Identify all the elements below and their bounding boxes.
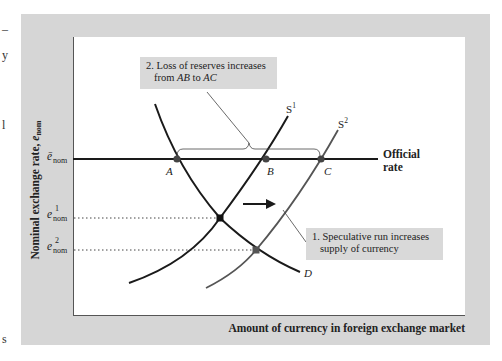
text-ab: AB [177, 72, 190, 83]
diagram-graphics [0, 0, 502, 361]
official-rate-label: Official rate [383, 148, 420, 174]
callout-reserves: 2. Loss of reserves increases from AB to… [140, 57, 277, 89]
shift-arrow-head [266, 199, 276, 209]
curve-label-sup: 2 [344, 116, 348, 125]
text-ac: AC [203, 72, 216, 83]
demand-curve [155, 104, 300, 272]
official-rate-line2: rate [383, 161, 420, 174]
text: from [154, 72, 177, 83]
supply-curve-s1 [129, 116, 288, 283]
callout-reserves-line1: 2. Loss of reserves increases [146, 60, 266, 71]
point-a-marker [173, 155, 180, 162]
official-rate-line1: Official [383, 148, 420, 161]
text: to [190, 72, 203, 83]
curve-label-d: D [304, 267, 312, 279]
curve-label-sup: 1 [292, 101, 296, 110]
reserves-brace [177, 143, 320, 156]
curve-label-s2: S2 [338, 116, 348, 130]
equilibrium-e1-marker [217, 215, 224, 222]
callout-speculative: 1. Speculative run increases supply of c… [306, 228, 443, 260]
curve-label-s1: S1 [286, 101, 296, 115]
point-b-marker [262, 155, 269, 162]
callout-speculative-line1: 1. Speculative run increases [312, 231, 429, 242]
reserves-leader-line [207, 92, 249, 143]
point-b-label: B [267, 165, 274, 177]
callout-speculative-line2: supply of currency [312, 243, 437, 255]
callout-reserves-line2: from AB to AC [146, 72, 271, 84]
equilibrium-e2-marker [253, 247, 260, 254]
point-c-label: C [324, 165, 331, 177]
point-a-label: A [166, 165, 173, 177]
point-c-marker [317, 155, 324, 162]
speculative-leader-line [283, 210, 306, 242]
